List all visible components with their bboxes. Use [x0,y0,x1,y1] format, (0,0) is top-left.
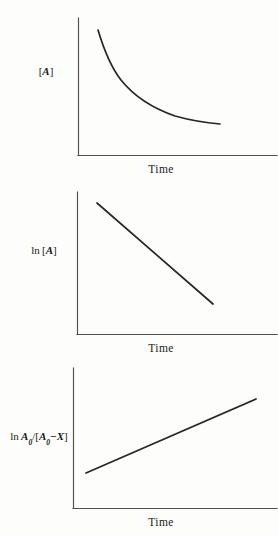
figure-stack: [A] Time ln [A] Time ln [0,0,278,536]
plot-3-data-line [86,399,256,473]
plot-1-y-axis-label: [A] [39,65,54,77]
plot-2-y-axis-label: ln [A] [31,244,56,256]
plot-2-data-line [97,203,213,304]
plot-2-svg: ln [A] Time [0,180,278,356]
plot-3-x-axis-label: Time [148,516,173,528]
plot-concentration-vs-time: [A] Time [0,0,278,180]
plot-2-x-axis-label: Time [148,342,173,354]
plot-3-y-axis-label: ln A0/[A0−X] [10,430,67,447]
plot-3-svg: ln A0/[A0−X] Time [0,356,278,536]
plot-ln-concentration-vs-time: ln [A] Time [0,180,278,356]
plot-1-x-axis-label: Time [148,163,173,175]
plot-1-svg: [A] Time [0,0,278,180]
plot-integrated-rate-vs-time: ln A0/[A0−X] Time [0,356,278,536]
plot-1-data-curve [98,30,220,124]
